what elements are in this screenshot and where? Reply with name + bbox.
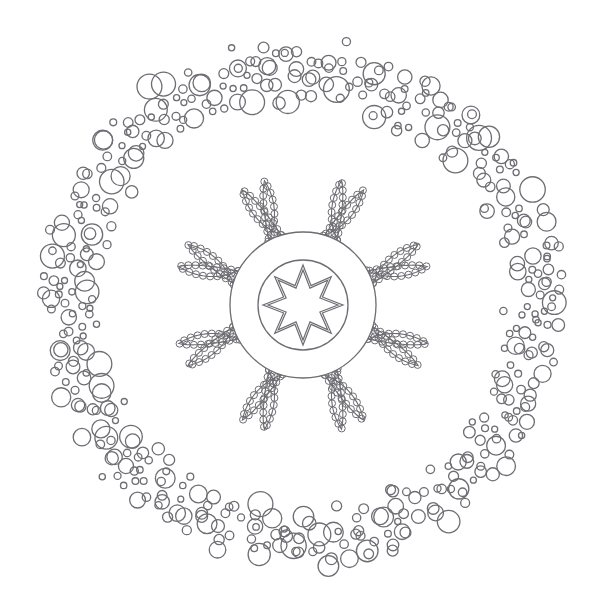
mandala-artwork: [0, 0, 607, 607]
mandala-canvas: [0, 0, 607, 607]
central-medallion: [230, 232, 376, 378]
core-outer-circle: [230, 232, 376, 378]
